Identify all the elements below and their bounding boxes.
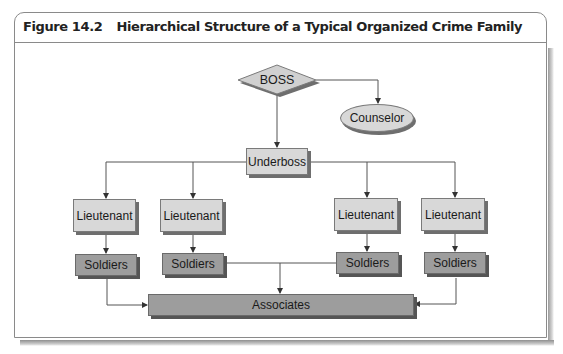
counselor-node: Counselor: [340, 104, 414, 132]
soldiers-node-1: Soldiers: [75, 254, 137, 276]
lieutenant-node-4: Lieutenant: [421, 198, 485, 231]
lieutenant-node-1: Lieutenant: [73, 199, 136, 232]
soldiers-node-4: Soldiers: [424, 252, 486, 274]
org-chart: BOSS Counselor Underboss Lieutenant Lieu…: [0, 0, 563, 354]
boss-label: BOSS: [238, 70, 316, 90]
associates-node: Associates: [148, 294, 414, 316]
soldiers-node-2: Soldiers: [162, 253, 224, 275]
underboss-node: Underboss: [246, 148, 308, 175]
lieutenant-node-2: Lieutenant: [160, 199, 223, 232]
soldiers-node-3: Soldiers: [336, 252, 399, 274]
lieutenant-node-3: Lieutenant: [334, 198, 398, 231]
